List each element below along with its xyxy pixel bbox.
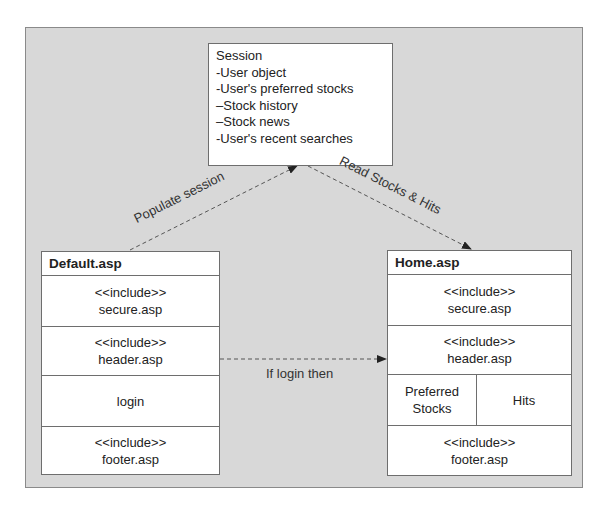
- session-box: Session -User object -User's preferred s…: [208, 43, 393, 166]
- if-login-label: If login then: [266, 366, 333, 381]
- default-secure-row: <<include>> secure.asp: [42, 276, 219, 327]
- session-item: -User's recent searches: [216, 131, 392, 148]
- include-file: header.asp: [447, 350, 511, 367]
- session-item: -User's preferred stocks: [216, 81, 392, 98]
- stereotype-label: <<include>>: [444, 434, 516, 451]
- include-file: secure.asp: [448, 300, 512, 317]
- stereotype-label: <<include>>: [95, 284, 167, 301]
- session-title: Session: [216, 48, 392, 65]
- home-footer-row: <<include>> footer.asp: [388, 426, 571, 475]
- stocks-label: Stocks: [405, 400, 459, 417]
- home-asp-class: Home.asp <<include>> secure.asp <<includ…: [387, 250, 572, 476]
- preferred-label: Preferred: [405, 383, 459, 400]
- home-header-row: <<include>> header.asp: [388, 326, 571, 375]
- stereotype-label: <<include>>: [444, 283, 516, 300]
- hits-label: Hits: [513, 392, 535, 409]
- session-item: -User object: [216, 65, 392, 82]
- default-asp-title: Default.asp: [42, 252, 219, 276]
- include-file: footer.asp: [102, 451, 159, 468]
- hits-cell: Hits: [477, 375, 571, 425]
- default-asp-class: Default.asp <<include>> secure.asp <<inc…: [41, 251, 220, 475]
- login-label: login: [117, 393, 144, 410]
- default-footer-row: <<include>> footer.asp: [42, 427, 219, 474]
- stereotype-label: <<include>>: [95, 434, 167, 451]
- include-file: footer.asp: [451, 451, 508, 468]
- stereotype-label: <<include>>: [95, 334, 167, 351]
- home-content-row: Preferred Stocks Hits: [388, 375, 571, 426]
- include-file: secure.asp: [99, 301, 163, 318]
- default-header-row: <<include>> header.asp: [42, 327, 219, 376]
- home-secure-row: <<include>> secure.asp: [388, 275, 571, 326]
- preferred-stocks-cell: Preferred Stocks: [388, 375, 477, 425]
- default-login-row: login: [42, 376, 219, 427]
- session-item: –Stock history: [216, 98, 392, 115]
- home-asp-title: Home.asp: [388, 251, 571, 275]
- session-item: –Stock news: [216, 114, 392, 131]
- include-file: header.asp: [98, 351, 162, 368]
- stereotype-label: <<include>>: [444, 333, 516, 350]
